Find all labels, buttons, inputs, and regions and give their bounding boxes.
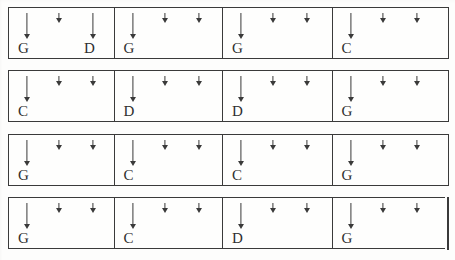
arrow-head: [56, 18, 62, 23]
down-strum-short-icon: [300, 140, 314, 153]
down-strum-short-icon: [410, 76, 424, 89]
down-strum-long-icon: [126, 13, 140, 41]
chord-label[interactable]: D: [84, 41, 95, 56]
down-strum-short-icon: [300, 13, 314, 26]
arrow-head: [162, 145, 168, 150]
arrow-head: [130, 161, 136, 166]
down-strum-long-icon: [344, 140, 358, 168]
arrow-head: [414, 81, 420, 86]
arrow-head: [24, 34, 30, 39]
down-strum-short-icon: [266, 203, 280, 216]
staff-system: GCDG: [8, 197, 449, 249]
chord-label[interactable]: C: [18, 104, 28, 119]
down-strum-short-icon: [158, 203, 172, 216]
chord-label[interactable]: G: [18, 231, 29, 246]
measure[interactable]: D: [222, 71, 332, 121]
measure[interactable]: G: [332, 135, 448, 185]
down-strum-long-icon: [234, 76, 248, 104]
chord-label[interactable]: C: [232, 168, 242, 183]
down-strum-short-icon: [410, 13, 424, 26]
down-strum-short-icon: [158, 13, 172, 26]
staff-system: CDDG: [8, 70, 449, 122]
staff-system: GCCG: [8, 134, 449, 186]
arrow-head: [380, 81, 386, 86]
down-strum-long-icon: [126, 76, 140, 104]
measure[interactable]: C: [9, 71, 114, 121]
arrow-head: [162, 18, 168, 23]
arrow-head: [348, 34, 354, 39]
measure[interactable]: G: [332, 198, 448, 248]
arrow-head: [130, 97, 136, 102]
arrow-head: [270, 208, 276, 213]
down-strum-long-icon: [234, 203, 248, 231]
down-strum-short-icon: [300, 76, 314, 89]
down-strum-long-icon: [20, 13, 34, 41]
chord-label[interactable]: D: [232, 231, 243, 246]
arrow-head: [238, 224, 244, 229]
arrow-head: [196, 81, 202, 86]
down-strum-short-icon: [376, 140, 390, 153]
down-strum-long-icon: [344, 13, 358, 41]
arrow-shaft: [26, 13, 27, 36]
chord-label[interactable]: D: [124, 104, 135, 119]
measure[interactable]: D: [222, 198, 332, 248]
arrow-head: [130, 34, 136, 39]
chord-label[interactable]: G: [232, 41, 243, 56]
arrow-head: [130, 224, 136, 229]
arrow-head: [380, 145, 386, 150]
down-strum-long-icon: [126, 203, 140, 231]
arrow-shaft: [92, 13, 93, 36]
measure[interactable]: G: [222, 8, 332, 58]
measure[interactable]: G: [9, 198, 114, 248]
down-strum-long-icon: [20, 76, 34, 104]
measure[interactable]: C: [222, 135, 332, 185]
measure[interactable]: C: [332, 8, 448, 58]
chord-label[interactable]: G: [18, 168, 29, 183]
arrow-shaft: [350, 140, 351, 163]
chord-label[interactable]: C: [124, 168, 134, 183]
chord-label[interactable]: C: [342, 41, 352, 56]
measure[interactable]: G: [332, 71, 448, 121]
chord-label[interactable]: G: [342, 168, 353, 183]
measure[interactable]: G: [9, 135, 114, 185]
down-strum-short-icon: [376, 13, 390, 26]
arrow-head: [304, 145, 310, 150]
arrow-shaft: [132, 76, 133, 99]
measure[interactable]: GD: [9, 8, 114, 58]
down-strum-short-icon: [192, 203, 206, 216]
down-strum-short-icon: [52, 203, 66, 216]
arrow-head: [304, 81, 310, 86]
arrow-shaft: [26, 140, 27, 163]
arrow-head: [24, 97, 30, 102]
measure[interactable]: D: [114, 71, 223, 121]
down-strum-long-icon: [344, 203, 358, 231]
arrow-head: [90, 145, 96, 150]
down-strum-short-icon: [86, 140, 100, 153]
chord-label[interactable]: G: [342, 231, 353, 246]
down-strum-short-icon: [52, 76, 66, 89]
arrow-shaft: [132, 140, 133, 163]
down-strum-short-icon: [192, 13, 206, 26]
arrow-head: [380, 208, 386, 213]
chord-label[interactable]: C: [124, 231, 134, 246]
down-strum-long-icon: [20, 140, 34, 168]
chord-label[interactable]: D: [232, 104, 243, 119]
chord-label[interactable]: G: [342, 104, 353, 119]
down-strum-short-icon: [376, 76, 390, 89]
arrow-head: [56, 81, 62, 86]
chord-chart-sheet: GDGGCCDDGGCCGGCDG: [0, 0, 455, 260]
arrow-head: [348, 97, 354, 102]
arrow-head: [238, 34, 244, 39]
measure[interactable]: C: [114, 198, 223, 248]
measure[interactable]: G: [114, 8, 223, 58]
chord-label[interactable]: G: [124, 41, 135, 56]
chord-label[interactable]: G: [18, 41, 29, 56]
down-strum-short-icon: [410, 203, 424, 216]
arrow-shaft: [350, 76, 351, 99]
arrow-head: [304, 18, 310, 23]
arrow-shaft: [240, 140, 241, 163]
measure[interactable]: C: [114, 135, 223, 185]
down-strum-short-icon: [192, 76, 206, 89]
arrow-shaft: [132, 203, 133, 226]
arrow-head: [414, 18, 420, 23]
